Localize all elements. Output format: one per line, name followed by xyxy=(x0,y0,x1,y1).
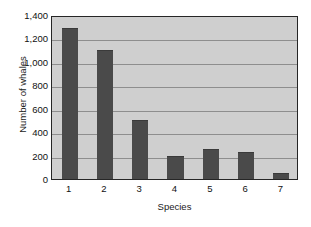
bars-group xyxy=(52,17,297,179)
x-axis-tick-label: 6 xyxy=(230,183,260,194)
y-axis-tick-label: 0 xyxy=(8,175,48,185)
x-axis-tick-labels: 1234567 xyxy=(51,183,298,197)
x-axis-title: Species xyxy=(51,201,298,212)
y-axis-tick-label: 800 xyxy=(8,81,48,91)
bar xyxy=(167,156,183,179)
y-axis-tick-label: 1,200 xyxy=(8,34,48,44)
plot-area xyxy=(51,16,298,180)
x-axis-tick-label: 4 xyxy=(160,183,190,194)
y-axis-tick-label: 200 xyxy=(8,152,48,162)
bar xyxy=(62,28,78,179)
bar xyxy=(132,120,148,179)
y-axis-tick-labels: 02004006008001,0001,2001,400 xyxy=(8,0,48,227)
bar xyxy=(97,50,113,179)
y-axis-tick-label: 600 xyxy=(8,105,48,115)
x-axis-tick-label: 3 xyxy=(124,183,154,194)
y-axis-tick-label: 1,000 xyxy=(8,58,48,68)
y-axis-tick-label: 400 xyxy=(8,128,48,138)
bar-chart: Number of whales 02004006008001,0001,200… xyxy=(0,0,311,227)
y-axis-tick-label: 1,400 xyxy=(8,11,48,21)
bar xyxy=(273,173,289,179)
x-axis-tick-label: 7 xyxy=(265,183,295,194)
bar xyxy=(203,149,219,179)
x-axis-tick-label: 1 xyxy=(54,183,84,194)
x-axis-tick-label: 2 xyxy=(89,183,119,194)
bar xyxy=(238,152,254,179)
x-axis-tick-label: 5 xyxy=(195,183,225,194)
